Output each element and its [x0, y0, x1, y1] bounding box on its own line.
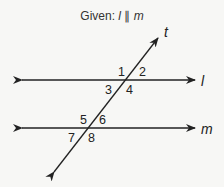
angle-5: 5 — [80, 114, 87, 127]
label-m: m — [201, 122, 213, 136]
angle-7: 7 — [68, 132, 75, 145]
angle-8: 8 — [88, 132, 95, 145]
angle-4: 4 — [126, 84, 133, 97]
label-l: l — [201, 74, 204, 88]
angle-3: 3 — [105, 84, 112, 97]
angle-6: 6 — [99, 114, 106, 127]
angle-1: 1 — [118, 66, 125, 79]
transversal-t — [54, 38, 158, 172]
parallel-lines-diagram — [0, 0, 224, 187]
angle-2: 2 — [139, 66, 146, 79]
label-t: t — [164, 25, 168, 39]
